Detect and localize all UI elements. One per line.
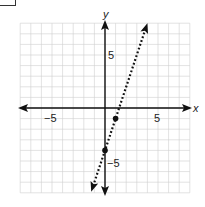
y-tick-label-5: 5 bbox=[108, 49, 114, 61]
data-point bbox=[113, 116, 119, 122]
x-tick-label-5: 5 bbox=[154, 112, 160, 124]
line-arrow-icon bbox=[140, 23, 148, 34]
data-point bbox=[102, 148, 108, 154]
x-tick-label-neg5: −5 bbox=[44, 112, 57, 124]
y-tick-label-neg5: −5 bbox=[107, 157, 120, 169]
coordinate-plane: x y −5 5 5 −5 bbox=[0, 0, 205, 207]
x-axis-label: x bbox=[192, 102, 199, 114]
y-axis-label: y bbox=[102, 8, 110, 20]
